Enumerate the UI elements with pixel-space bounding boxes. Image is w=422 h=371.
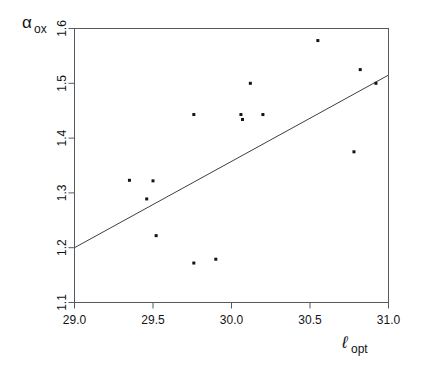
y-axis-title-symbol: α <box>22 13 32 32</box>
y-axis-title-subscript: ox <box>34 22 47 36</box>
data-point <box>249 82 252 85</box>
data-point <box>192 262 195 265</box>
y-tick-label: 1.5 <box>55 75 69 92</box>
data-point <box>145 197 148 200</box>
data-point <box>316 39 319 42</box>
y-tick-label: 1.1 <box>55 294 69 311</box>
y-tick-label: 1.2 <box>55 239 69 256</box>
y-tick-label: 1.6 <box>55 20 69 37</box>
y-tick-label: 1.4 <box>55 129 69 146</box>
data-point <box>155 234 158 237</box>
x-axis-title-symbol: ℓ <box>341 333 348 352</box>
x-tick-label: 30.5 <box>298 313 322 327</box>
data-point <box>261 113 264 116</box>
data-point <box>359 68 362 71</box>
y-tick-label: 1.3 <box>55 184 69 201</box>
x-tick-label: 31.0 <box>377 313 401 327</box>
data-point <box>128 179 131 182</box>
scatter-plot-figure: 29.029.530.030.531.0 1.11.21.31.41.51.6 … <box>0 0 422 371</box>
data-point <box>214 258 217 261</box>
data-point <box>152 179 155 182</box>
plot-canvas: 29.029.530.030.531.0 1.11.21.31.41.51.6 … <box>0 0 422 371</box>
data-point <box>239 113 242 116</box>
data-point <box>374 82 377 85</box>
data-point <box>192 113 195 116</box>
x-axis-title-subscript: opt <box>351 342 368 356</box>
data-point <box>352 150 355 153</box>
x-tick-label: 29.0 <box>63 313 87 327</box>
x-tick-label: 30.0 <box>220 313 244 327</box>
x-tick-label: 29.5 <box>141 313 165 327</box>
data-point <box>241 118 244 121</box>
